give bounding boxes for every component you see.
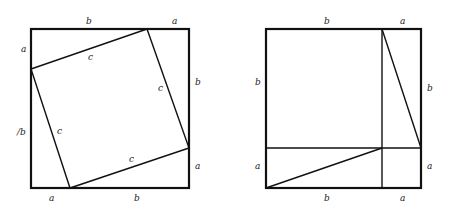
right-side-labels: babbaaba <box>255 16 433 203</box>
pythagorean-proof-diagram: baabccc/bcaab babbaaba <box>0 0 450 213</box>
left-outer-square <box>31 29 189 188</box>
inner-tilted-square <box>31 29 189 188</box>
side-label-a: a <box>49 193 54 203</box>
side-label-a: a <box>172 16 177 26</box>
side-label-b: b <box>324 16 330 26</box>
side-label-b: /b <box>16 127 26 137</box>
side-label-a: a <box>427 161 432 171</box>
side-label-c: c <box>158 83 163 93</box>
right-square-panel: babbaaba <box>255 16 433 203</box>
hypotenuse-line <box>382 29 421 148</box>
side-label-c: c <box>57 126 62 136</box>
side-label-c: c <box>88 52 93 62</box>
side-label-c: c <box>129 154 134 164</box>
side-label-b: b <box>324 193 330 203</box>
side-label-b: b <box>427 83 433 93</box>
side-label-a: a <box>400 16 405 26</box>
side-label-a: a <box>195 161 200 171</box>
triangle-diagonals <box>266 29 421 188</box>
left-square-panel: baabccc/bcaab <box>16 16 201 203</box>
hypotenuse-line <box>266 148 382 188</box>
right-outer-square <box>266 29 421 188</box>
side-label-b: b <box>195 77 201 87</box>
side-label-b: b <box>86 16 92 26</box>
side-label-b: b <box>255 77 261 87</box>
side-label-a: a <box>21 44 26 54</box>
side-label-a: a <box>400 193 405 203</box>
side-label-a: a <box>255 161 260 171</box>
side-label-b: b <box>134 193 140 203</box>
